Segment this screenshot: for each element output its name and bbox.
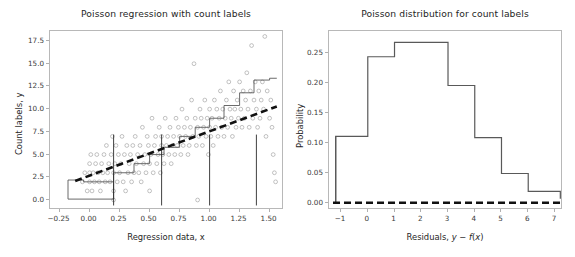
left-y-tick-mark [46,176,49,177]
right-x-tick-mark [394,209,395,212]
right-y-tick-mark [325,142,328,143]
xlabel-paren-close: ) [480,232,483,242]
right-x-tick-mark [420,209,421,212]
left-x-tick: 1.50 [249,214,289,223]
left-x-tick-mark [179,209,180,212]
right-x-tick-mark [554,209,555,212]
left-x-tick-mark [239,209,240,212]
left-x-tick-mark [89,209,90,212]
left-y-tick-mark [46,108,49,109]
left-plot-canvas [50,31,283,209]
right-x-tick: 7 [534,214,574,223]
left-y-tick: 12.5 [16,81,44,90]
xlabel-minus: − [457,232,469,242]
left-axes-frame [49,30,283,209]
left-y-tick: 2.5 [16,172,44,181]
left-x-tick-mark [59,209,60,212]
right-x-tick-mark [500,209,501,212]
right-y-tick: 0.00 [295,198,323,207]
left-y-tick-mark [46,40,49,41]
left-y-axis-label: Count labels, y [14,93,24,155]
right-axes-frame [328,30,562,209]
right-x-axis-label: Residuals, y − f(x) [328,232,562,242]
right-x-tick-mark [527,209,528,212]
left-x-tick-mark [209,209,210,212]
left-y-tick-mark [46,63,49,64]
left-x-tick-mark [269,209,270,212]
right-y-tick: 0.20 [295,78,323,87]
right-x-tick-mark [340,209,341,212]
right-plot-title: Poisson distribution for count labels [310,8,575,19]
right-y-tick-mark [325,172,328,173]
right-y-tick-mark [325,112,328,113]
right-x-tick-mark [367,209,368,212]
left-y-tick-mark [46,85,49,86]
left-y-tick: 17.5 [16,36,44,45]
xlabel-prefix: Residuals, [407,232,452,242]
left-y-tick: 0.0 [16,195,44,204]
left-plot-title: Poisson regression with count labels [46,8,286,19]
matplotlib-figure: Poisson regression with count labels 0.0… [0,0,575,257]
right-y-axis-label: Probability [295,104,305,148]
right-y-tick: 0.25 [295,48,323,57]
right-y-tick-mark [325,82,328,83]
left-y-tick: 15.0 [16,59,44,68]
left-y-tick-mark [46,154,49,155]
left-x-tick-mark [149,209,150,212]
right-x-tick-mark [447,209,448,212]
right-y-tick-mark [325,202,328,203]
right-y-tick: 0.05 [295,168,323,177]
left-y-tick-mark [46,131,49,132]
right-plot-canvas [329,31,562,209]
right-y-tick-mark [325,52,328,53]
left-y-tick-mark [46,199,49,200]
right-x-tick-mark [474,209,475,212]
left-x-axis-label: Regression data, x [49,232,283,242]
left-x-tick-mark [119,209,120,212]
